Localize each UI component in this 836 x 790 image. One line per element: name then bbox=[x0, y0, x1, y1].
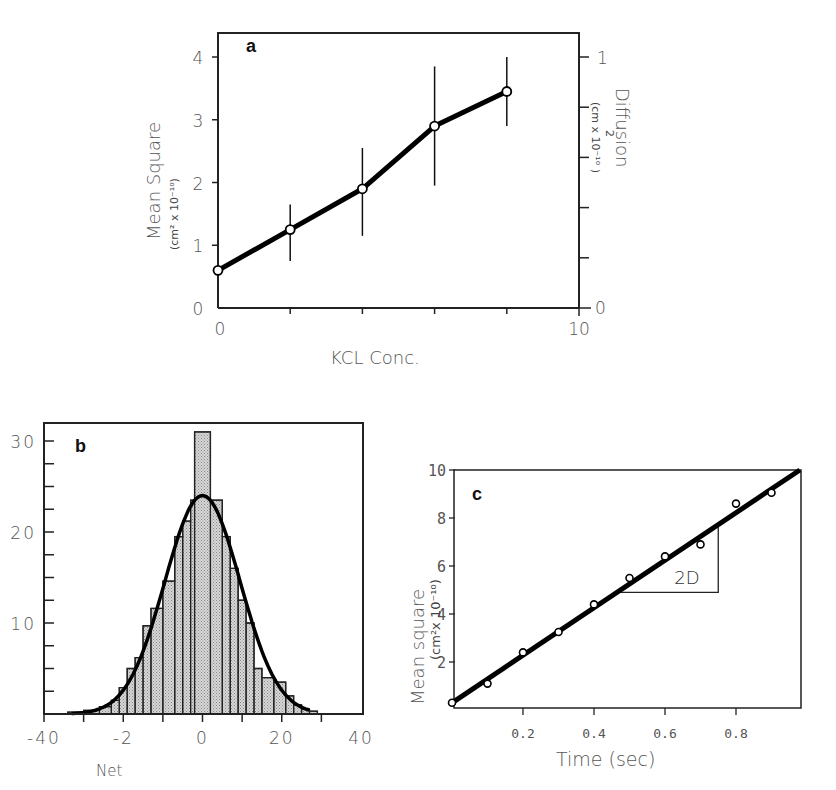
panel-b-histogram-bars bbox=[68, 432, 318, 714]
data-point bbox=[733, 500, 740, 507]
x-tick-label: 0 bbox=[196, 728, 209, 748]
panel-a-letter: a bbox=[246, 36, 257, 56]
data-point bbox=[662, 553, 669, 560]
y-tick-label: 10 bbox=[428, 462, 446, 480]
y-tick-label: 2 bbox=[193, 174, 204, 194]
panel-a-ticks: 0123410010 bbox=[193, 48, 608, 339]
panel-b-letter: b bbox=[75, 436, 86, 456]
panel-a-x-axis-title: KCL Conc. bbox=[330, 347, 420, 368]
panel-a-y2-axis-title: Diffusion bbox=[612, 88, 633, 167]
x-tick-label: 0 bbox=[215, 319, 226, 339]
panel-c-slope-label: 2D bbox=[674, 567, 699, 588]
panel-b-histogram: 102030-40-202040 b Net bbox=[10, 423, 373, 780]
panel-c-x-axis-title: Time (sec) bbox=[556, 748, 655, 770]
panel-c-scatter-chart: 2468100.20.40.60.8 2D c Time (sec) Mean … bbox=[407, 462, 801, 770]
data-point bbox=[555, 629, 562, 636]
data-point bbox=[286, 225, 295, 234]
x-tick-label: 0.8 bbox=[724, 726, 747, 741]
data-point bbox=[626, 575, 633, 582]
panel-a-y-axis-units: (cm² x 10⁻¹⁰) bbox=[168, 178, 181, 250]
x-tick-label: 40 bbox=[348, 728, 374, 748]
data-point bbox=[591, 601, 598, 608]
panel-c-y-axis-units: (cm²x 10⁻¹⁰) bbox=[428, 579, 443, 660]
panel-c-y-axis-title: Mean square bbox=[407, 589, 428, 705]
data-point bbox=[430, 122, 439, 131]
x-tick-label: -2 bbox=[113, 728, 134, 748]
figure-canvas: 0123410010 a KCL Conc. Mean Square (cm² … bbox=[0, 0, 836, 790]
y-tick-label: 30 bbox=[10, 432, 36, 452]
y-tick-label: 20 bbox=[10, 523, 36, 543]
y2-tick-label: 1 bbox=[597, 48, 608, 68]
x-tick-label: 10 bbox=[568, 319, 590, 339]
panel-a-line-chart: 0123410010 a KCL Conc. Mean Square (cm² … bbox=[143, 33, 633, 368]
y-tick-label: 1 bbox=[193, 236, 204, 256]
data-point bbox=[520, 649, 527, 656]
data-point bbox=[214, 266, 223, 275]
x-tick-label: 0.2 bbox=[511, 726, 534, 741]
x-tick-label: 20 bbox=[269, 728, 295, 748]
y-tick-label: 10 bbox=[10, 614, 36, 634]
y-tick-label: 3 bbox=[193, 111, 204, 131]
panel-c-letter: c bbox=[472, 484, 482, 504]
data-point bbox=[768, 489, 775, 496]
y-tick-label: 8 bbox=[437, 510, 446, 528]
panel-a-y2-axis-units: (cm x 10⁻¹⁰ ) bbox=[589, 102, 602, 173]
panel-b-x-axis-title: Net bbox=[96, 762, 122, 780]
x-tick-label: 0.6 bbox=[653, 726, 676, 741]
panel-c-fit-line bbox=[452, 470, 800, 703]
data-point bbox=[697, 541, 704, 548]
y-tick-label: 0 bbox=[193, 299, 204, 319]
y-tick-label: 6 bbox=[437, 558, 446, 576]
x-tick-label: -40 bbox=[27, 728, 61, 748]
panel-a-y2-axis-sup: 2 bbox=[603, 130, 616, 137]
histogram-area bbox=[68, 432, 318, 714]
x-tick-label: 0.4 bbox=[582, 726, 606, 741]
y2-tick-label: 0 bbox=[595, 298, 606, 318]
data-point bbox=[484, 680, 491, 687]
data-point bbox=[502, 87, 511, 96]
y-tick-label: 4 bbox=[193, 48, 204, 68]
panel-a-y-axis-title: Mean Square bbox=[143, 122, 164, 240]
data-point bbox=[449, 699, 456, 706]
data-point bbox=[358, 184, 367, 193]
panel-a-frame bbox=[218, 33, 579, 308]
